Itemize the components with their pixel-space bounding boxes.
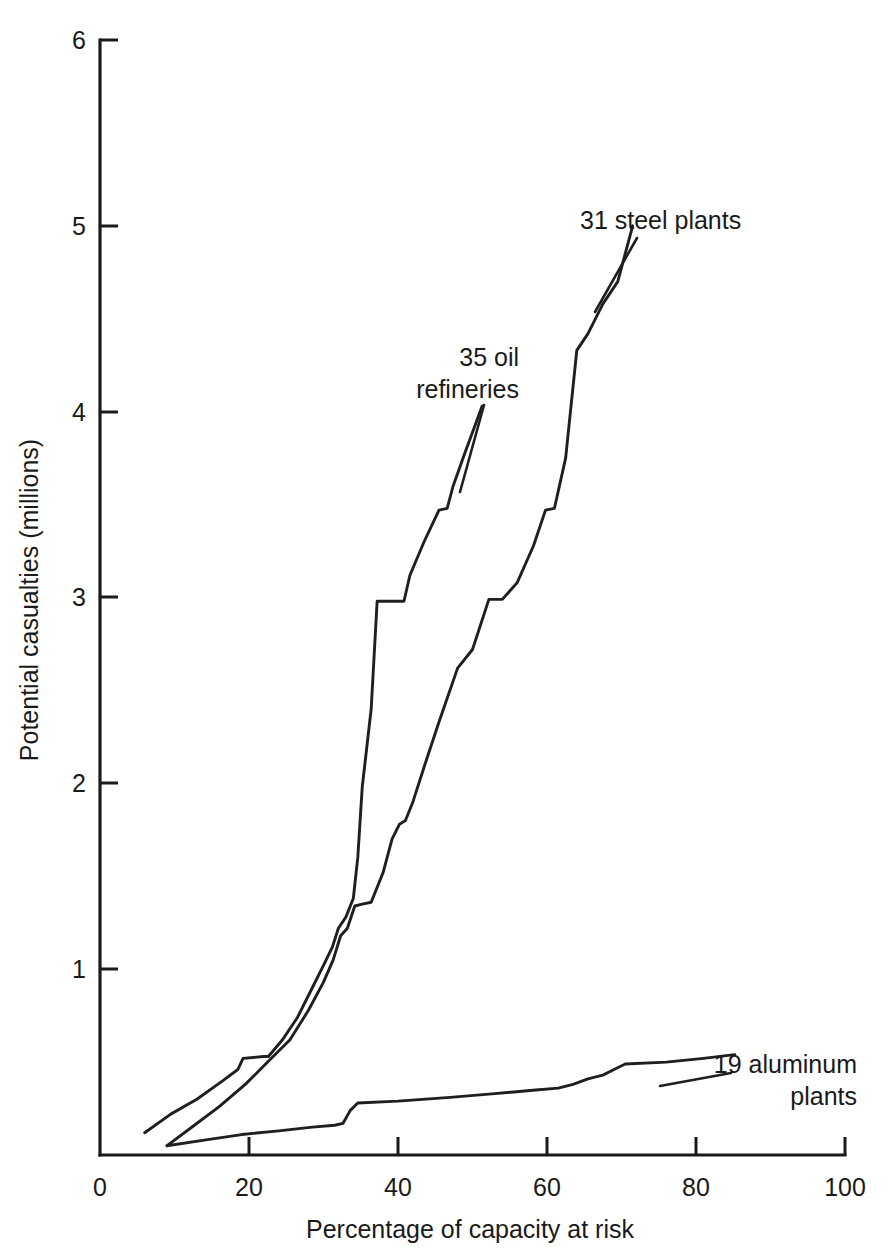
series-label-oil-refineries-line1: 35 oil [459,343,519,371]
x-tick-label-20: 20 [235,1173,263,1201]
y-tick-label-4: 4 [72,398,86,426]
series-label-aluminum-plants-line2: plants [790,1082,857,1110]
y-tick-label-3: 3 [72,583,86,611]
x-tick-label-80: 80 [682,1173,710,1201]
x-tick-label-100: 100 [824,1173,866,1201]
series-label-aluminum-plants-line1: 19 aluminum [714,1050,857,1078]
y-tick-label-1: 1 [72,955,86,983]
series-label-oil-refineries-line2: refineries [416,375,519,403]
x-tick-label-60: 60 [533,1173,561,1201]
x-axis-title: Percentage of capacity at risk [306,1215,634,1243]
y-tick-label-5: 5 [72,212,86,240]
chart-figure: 1 2 3 4 5 6 0 20 40 60 80 100 Percentage… [0,0,890,1254]
y-tick-label-6: 6 [72,26,86,54]
x-tick-label-0: 0 [93,1173,107,1201]
x-tick-label-40: 40 [384,1173,412,1201]
line-chart-svg: 1 2 3 4 5 6 0 20 40 60 80 100 Percentage… [0,0,890,1254]
y-axis-title: Potential casualties (millions) [15,439,43,761]
series-label-steel-plants: 31 steel plants [580,206,741,234]
y-tick-label-2: 2 [72,769,86,797]
